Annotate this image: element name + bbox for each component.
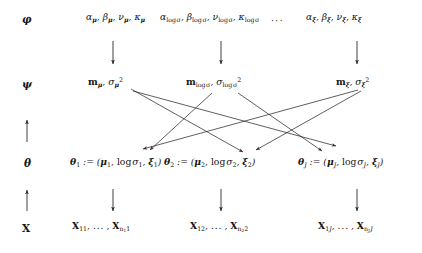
node-x-J: X1J, . . . , XnJ J [318,221,373,231]
edge-psi-logsigma-to-theta-1 [150,93,212,150]
edge-psi-mu-to-theta-J [133,91,336,146]
row-label-psi: ψ [22,78,32,90]
node-theta-J: θJ := (μJ, log σJ, ξJ) [298,157,383,166]
node-x-1: X11, . . . , Xn11 [72,221,130,231]
row-label-X: X [22,222,30,234]
node-theta-2: θ2 := (μ2, log σ2, ξ2) [164,157,255,166]
ellipsis-phi-row: ··· [271,16,284,26]
figure-canvas: φ ψ θ X αμ, βμ, νμ, κμ αlog σ, βlog σ, ν… [0,0,422,253]
node-psi-logsigma: mlog σ, σlog σ2 [186,77,241,86]
edge-psi-xi-to-theta-1 [143,90,358,149]
node-theta-1: θ1 := (μ1, log σ1, ξ1) [70,157,161,166]
node-phi-mu: αμ, βμ, νμ, κμ [86,12,145,21]
row-label-theta: θ [24,157,31,169]
node-x-2: X12, . . . , Xn22 [190,221,248,231]
row-label-phi: φ [22,13,32,25]
node-phi-xi: αξ, βξ, νξ, κξ [306,12,362,21]
edge-psi-logsigma-to-theta-J [238,93,322,151]
edge-psi-xi-to-theta-2 [256,91,361,150]
edge-layer [0,0,422,253]
edge-psi-mu-to-theta-2 [131,89,243,152]
node-psi-mu: mμ, σμ2 [88,77,123,86]
node-phi-logsigma: αlog σ, βlog σ, νlog σ, κlog σ [160,12,259,21]
node-psi-xi: mξ, σξ2 [336,77,369,86]
